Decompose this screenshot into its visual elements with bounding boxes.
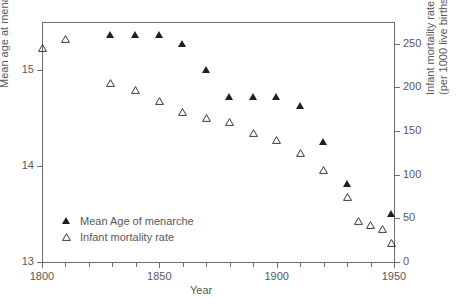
filled-triangle-marker [387, 210, 395, 217]
open-triangle-marker [354, 217, 363, 225]
y-axis-right-tick [395, 175, 400, 176]
x-axis-major-tick [394, 263, 395, 268]
x-axis-minor-tick [253, 263, 254, 267]
filled-triangle-marker [272, 93, 280, 100]
y-axis-right-title-line2: (per 1000 live births) [437, 0, 449, 95]
x-axis-minor-tick [300, 263, 301, 267]
y-axis-right-title-line1: Infant mortality rate [424, 1, 436, 95]
x-axis-tick-label: 1800 [22, 271, 62, 282]
filled-triangle-marker [62, 217, 70, 224]
open-triangle-marker [366, 221, 375, 229]
y-axis-right-tick [395, 218, 400, 219]
x-axis-minor-tick [230, 263, 231, 267]
x-axis-tick-label: 1850 [139, 271, 179, 282]
legend-item: Infant mortality rate [60, 229, 194, 245]
open-triangle-marker [61, 35, 70, 43]
y-axis-right-tick [395, 87, 400, 88]
x-axis-tick-label: 1950 [374, 271, 414, 282]
open-triangle-marker [155, 97, 164, 105]
x-axis-minor-tick [112, 263, 113, 267]
open-triangle-marker [38, 44, 47, 52]
open-triangle-marker [387, 239, 396, 247]
filled-triangle-marker [343, 180, 351, 187]
chart-figure: Mean age at menarche (yr) Infant mortali… [0, 0, 458, 304]
x-axis-minor-tick [371, 263, 372, 267]
x-axis-minor-tick [89, 263, 90, 267]
filled-triangle-marker [319, 138, 327, 145]
y-axis-right-tick-label: 100 [403, 169, 421, 180]
y-axis-right-tick [395, 44, 400, 45]
filled-triangle-marker [131, 31, 139, 38]
chart-legend: Mean Age of menarcheInfant mortality rat… [60, 213, 194, 245]
x-axis-minor-tick [324, 263, 325, 267]
open-triangle-marker [106, 79, 115, 87]
y-axis-right-tick [395, 262, 400, 263]
y-axis-right-tick-label: 50 [403, 212, 415, 223]
x-axis-line [42, 262, 395, 263]
filled-triangle-marker [249, 93, 257, 100]
filled-triangle-marker [202, 66, 210, 73]
y-axis-right-tick-label: 0 [403, 256, 409, 267]
open-triangle-marker [178, 108, 187, 116]
x-axis-tick-label: 1900 [257, 271, 297, 282]
filled-triangle-marker [106, 31, 114, 38]
open-triangle-marker [131, 86, 140, 94]
filled-triangle-marker [155, 31, 163, 38]
x-axis-minor-tick [347, 263, 348, 267]
y-axis-left-tick [37, 166, 42, 167]
filled-triangle-marker [296, 102, 304, 109]
open-triangle-marker [272, 136, 281, 144]
x-axis-minor-tick [65, 263, 66, 267]
legend-item-label: Infant mortality rate [80, 229, 174, 245]
filled-triangle-marker [178, 40, 186, 47]
y-axis-left-tick-label: 14 [4, 160, 34, 171]
y-axis-right-tick-label: 200 [403, 81, 421, 92]
y-axis-right-tick-label: 150 [403, 125, 421, 136]
open-triangle-marker [296, 149, 305, 157]
x-axis-minor-tick [183, 263, 184, 267]
x-axis-minor-tick [206, 263, 207, 267]
open-triangle-marker [225, 118, 234, 126]
y-axis-left-tick-label: 15 [4, 64, 34, 75]
open-triangle-marker [319, 166, 328, 174]
x-axis-major-tick [277, 263, 278, 268]
y-axis-left-line [42, 22, 43, 263]
y-axis-right-tick [395, 131, 400, 132]
open-triangle-marker [378, 225, 387, 233]
x-axis-major-tick [42, 263, 43, 268]
y-axis-right-line [394, 22, 395, 263]
x-axis-minor-tick [136, 263, 137, 267]
legend-item: Mean Age of menarche [60, 213, 194, 229]
filled-triangle-marker [225, 93, 233, 100]
x-axis-title: Year [190, 284, 212, 296]
y-axis-left-tick [37, 70, 42, 71]
open-triangle-marker [62, 233, 71, 241]
x-axis-major-tick [159, 263, 160, 268]
y-axis-right-tick-label: 250 [403, 38, 421, 49]
open-triangle-marker [343, 193, 352, 201]
open-triangle-marker [249, 129, 258, 137]
open-triangle-marker [202, 114, 211, 122]
legend-item-label: Mean Age of menarche [80, 213, 194, 229]
y-axis-left-tick-label: 13 [4, 256, 34, 267]
plot-top-border [42, 22, 395, 23]
